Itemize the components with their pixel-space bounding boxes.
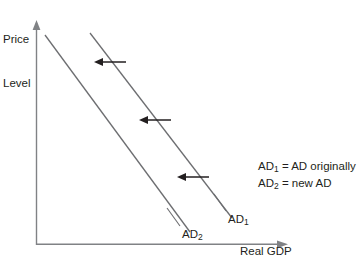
legend-row-ad2: AD2 = new AD (258, 176, 356, 193)
curve-label-ad1-subscript: 1 (244, 217, 249, 227)
y-axis-title: Price Level (3, 3, 31, 119)
x-axis-title: Real GDP (240, 244, 292, 259)
ad-shift-diagram: Price Level Real GDP AD2 AD1 AD1 = AD or… (0, 0, 363, 265)
legend-ad1-prefix: AD (258, 160, 274, 172)
curve-label-ad1-text: AD (228, 213, 244, 225)
y-axis-title-line2: Level (3, 76, 31, 91)
leader-line-ad1 (214, 194, 226, 211)
legend: AD1 = AD originally AD2 = new AD (258, 159, 356, 192)
legend-ad2-suffix: = new AD (279, 177, 332, 189)
curve-label-ad1: AD1 (228, 213, 249, 225)
curve-label-ad2-subscript: 2 (198, 232, 203, 242)
y-axis-arrowhead (33, 20, 41, 30)
diagram-canvas (0, 0, 363, 265)
legend-ad2-prefix: AD (258, 177, 274, 189)
curve-label-ad2-text: AD (182, 228, 198, 240)
arrow-head-left (177, 173, 186, 181)
arrow-head-left (94, 58, 103, 66)
arrow-head-left (139, 116, 148, 124)
curve-ad2 (45, 35, 190, 232)
y-axis (33, 20, 41, 245)
leader-line-ad2 (167, 208, 180, 226)
shift-arrow-bottom (177, 173, 209, 181)
legend-ad1-subscript: 1 (274, 164, 279, 174)
legend-row-ad1: AD1 = AD originally (258, 159, 356, 176)
y-axis-title-line1: Price (3, 32, 31, 47)
legend-ad2-subscript: 2 (274, 181, 279, 191)
curve-label-ad2: AD2 (182, 228, 203, 240)
legend-ad1-suffix: = AD originally (279, 160, 356, 172)
